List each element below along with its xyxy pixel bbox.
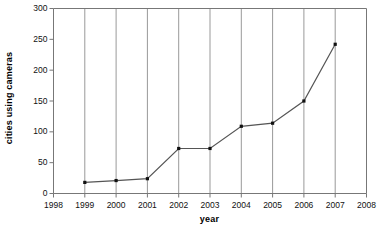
- x-tick-label-1999: 1999: [68, 200, 102, 210]
- x-tick-label-2001: 2001: [130, 200, 164, 210]
- y-tick-label-300: 300: [26, 3, 48, 13]
- data-point-2006: [302, 99, 305, 102]
- data-point-2005: [271, 122, 274, 125]
- x-tick-label-2000: 2000: [99, 200, 133, 210]
- x-tick-label-1998: 1998: [37, 200, 71, 210]
- data-point-2000: [115, 179, 118, 182]
- data-point-2001: [146, 177, 149, 180]
- gridlines-group: [85, 9, 335, 194]
- y-tick-label-200: 200: [26, 65, 48, 75]
- y-tick-label-50: 50: [26, 157, 48, 167]
- x-tick-label-2007: 2007: [318, 200, 352, 210]
- data-point-2003: [208, 147, 211, 150]
- data-point-1999: [83, 181, 86, 184]
- data-point-2004: [240, 125, 243, 128]
- x-tick-label-2003: 2003: [193, 200, 227, 210]
- x-tick-label-2008: 2008: [350, 200, 384, 210]
- line-chart-figure: cities using cameras year 05010015020025…: [0, 0, 384, 229]
- plot-area: [0, 0, 384, 229]
- y-tick-label-250: 250: [26, 34, 48, 44]
- y-tick-label-100: 100: [26, 126, 48, 136]
- x-tick-label-2005: 2005: [256, 200, 290, 210]
- x-tick-label-2004: 2004: [224, 200, 258, 210]
- y-tick-marks-group: [50, 9, 54, 194]
- x-tick-marks-group: [54, 194, 367, 198]
- data-point-2007: [334, 43, 337, 46]
- data-point-2002: [177, 147, 180, 150]
- y-tick-label-0: 0: [26, 188, 48, 198]
- y-tick-label-150: 150: [26, 96, 48, 106]
- x-tick-label-2006: 2006: [287, 200, 321, 210]
- x-tick-label-2002: 2002: [162, 200, 196, 210]
